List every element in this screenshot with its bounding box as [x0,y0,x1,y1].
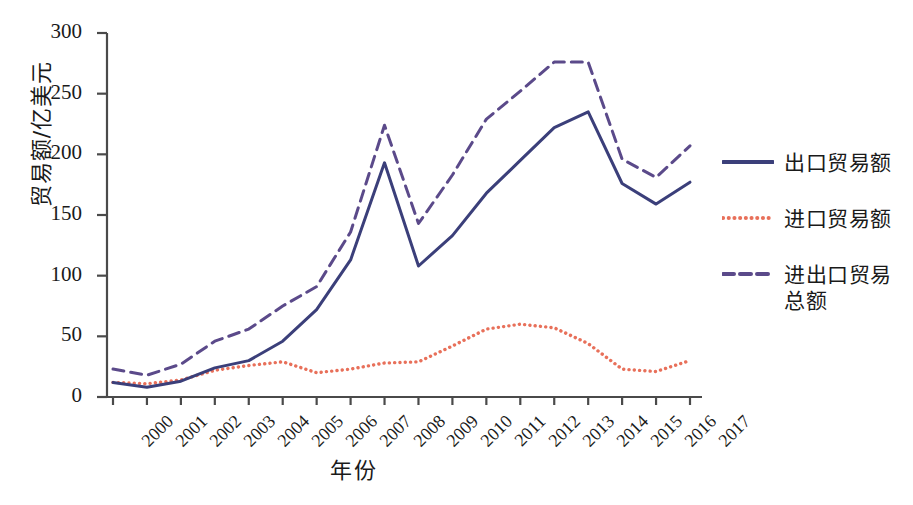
chart-canvas: 贸易额/亿美元 050100150200250300 2000200120022… [0,0,913,505]
chart-legend: 出口贸易额进口贸易额进出口贸易总额 [722,150,912,344]
legend-swatch-dotted-icon [722,210,774,232]
legend-item[interactable]: 进口贸易额 [722,206,912,232]
legend-label: 进出口贸易总额 [784,262,892,314]
series-line-0 [113,112,690,387]
legend-swatch-dashed-icon [722,266,774,288]
legend-item[interactable]: 出口贸易额 [722,150,912,176]
legend-swatch-solid-icon [722,154,774,176]
legend-item[interactable]: 进出口贸易总额 [722,262,912,314]
legend-label: 进口贸易额 [784,206,892,232]
legend-label: 出口贸易额 [784,150,892,176]
